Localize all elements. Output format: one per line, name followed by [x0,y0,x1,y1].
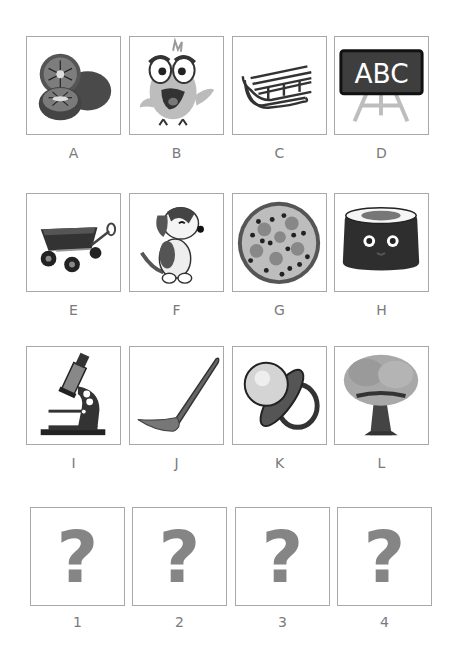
chalkboard-text: ABC [354,58,408,89]
question-mark-icon: ? [338,508,431,605]
card-label-g: G [232,302,327,318]
picture-card-h[interactable] [334,193,429,292]
card-label-f: F [129,302,224,318]
picture-card-i[interactable] [26,346,121,445]
spoon-icon [130,347,223,444]
card-label-d: D [334,145,429,161]
slot-label-3: 3 [235,614,330,630]
sushi-roll-icon [335,194,428,291]
question-mark-icon: ? [133,508,226,605]
picture-card-e[interactable] [26,193,121,292]
card-label-b: B [129,145,224,161]
picture-card-a[interactable] [26,36,121,135]
picture-card-d[interactable]: ABC [334,36,429,135]
picture-card-g[interactable] [232,193,327,292]
answer-slot-2[interactable]: ? [132,507,227,606]
picture-card-l[interactable] [334,346,429,445]
picture-card-b[interactable] [129,36,224,135]
picture-card-j[interactable] [129,346,224,445]
sled-icon [233,37,326,134]
cartoon-bird-icon [130,37,223,134]
puppy-icon [130,194,223,291]
tree-icon [335,347,428,444]
chalkboard-icon: ABC [335,37,428,134]
picture-card-f[interactable] [129,193,224,292]
question-mark-icon: ? [236,508,329,605]
microscope-icon [27,347,120,444]
answer-slot-3[interactable]: ? [235,507,330,606]
slot-label-1: 1 [30,614,125,630]
pacifier-icon [233,347,326,444]
card-label-c: C [232,145,327,161]
card-label-e: E [26,302,121,318]
card-label-j: J [129,455,224,471]
card-label-k: K [232,455,327,471]
question-mark-icon: ? [31,508,124,605]
card-label-h: H [334,302,429,318]
slot-label-2: 2 [132,614,227,630]
card-label-a: A [26,145,121,161]
kiwi-fruit-icon [27,37,120,134]
slot-label-4: 4 [337,614,432,630]
card-label-l: L [334,455,429,471]
picture-card-k[interactable] [232,346,327,445]
answer-slot-1[interactable]: ? [30,507,125,606]
picture-card-c[interactable] [232,36,327,135]
card-label-i: I [26,455,121,471]
wagon-icon [27,194,120,291]
answer-slot-4[interactable]: ? [337,507,432,606]
pizza-icon [233,194,326,291]
